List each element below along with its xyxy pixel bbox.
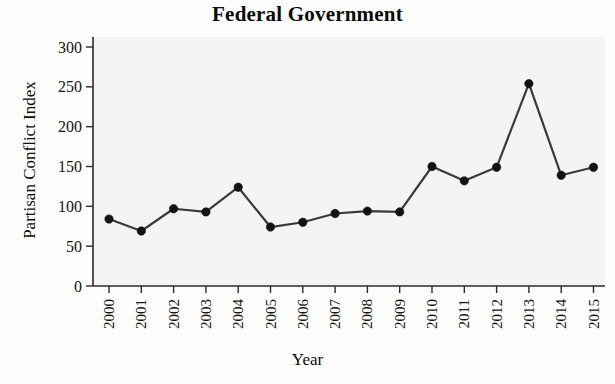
y-tick-label: 150 (58, 158, 82, 175)
data-point (428, 162, 436, 170)
data-point (234, 183, 242, 191)
data-point (492, 163, 500, 171)
x-tick-label: 2006 (295, 299, 311, 330)
data-point (137, 227, 145, 235)
data-point (396, 208, 404, 216)
x-tick-label: 2003 (198, 299, 214, 329)
y-tick-label: 100 (58, 198, 82, 215)
plot-background (93, 37, 605, 286)
chart-figure: Federal Government Partisan Conflict Ind… (0, 0, 615, 384)
y-tick-label: 250 (58, 78, 82, 95)
x-tick-label: 2012 (489, 299, 505, 329)
data-point (589, 163, 597, 171)
x-axis: 2000200120022003200420052006200720082009… (93, 286, 605, 329)
x-tick-label: 2010 (424, 299, 440, 329)
data-point (363, 207, 371, 215)
y-axis: 050100150200250300 (58, 37, 93, 295)
y-tick-label: 0 (74, 278, 82, 295)
x-tick-label: 2014 (553, 299, 569, 330)
x-tick-label: 2009 (392, 299, 408, 329)
data-point (202, 208, 210, 216)
x-tick-label: 2004 (230, 299, 246, 330)
data-point (105, 215, 113, 223)
data-point (525, 79, 533, 87)
x-tick-label: 2000 (101, 299, 117, 329)
data-point (266, 223, 274, 231)
y-tick-label: 200 (58, 118, 82, 135)
x-tick-label: 2008 (359, 299, 375, 329)
data-point (299, 218, 307, 226)
data-point (557, 171, 565, 179)
data-point (460, 177, 468, 185)
x-tick-label: 2001 (133, 299, 149, 329)
y-tick-label: 50 (66, 238, 82, 255)
x-tick-label: 2002 (166, 299, 182, 329)
data-point (331, 209, 339, 217)
x-tick-label: 2011 (456, 299, 472, 328)
y-tick-label: 300 (58, 39, 82, 56)
x-tick-label: 2013 (521, 299, 537, 329)
plot-area: 050100150200250300 200020012002200320042… (0, 0, 615, 384)
x-tick-label: 2007 (327, 299, 343, 330)
x-tick-label: 2005 (263, 299, 279, 329)
data-point (169, 205, 177, 213)
x-tick-label: 2015 (586, 299, 602, 329)
